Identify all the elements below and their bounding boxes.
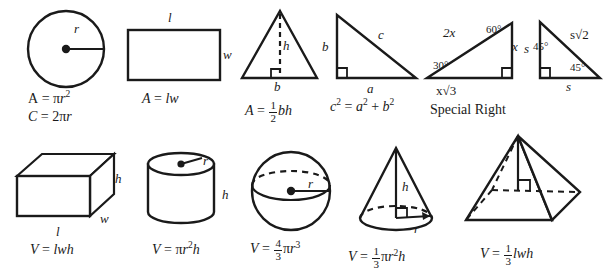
right-triangle-leg-b-label: b <box>322 40 329 53</box>
triangle-45-45-90-hypotenuse-label: s√2 <box>570 28 589 41</box>
triangle-30-60-90-angle-30-label: 30° <box>433 60 448 71</box>
triangle-45-45-90-angle-bottom-label: 45° <box>570 62 585 73</box>
pyramid-volume-formula: V = 13lwh <box>480 243 533 267</box>
rectangle-length-label: l <box>168 11 172 24</box>
circle-radius-label: r <box>74 22 79 35</box>
circle-area-lhs: A <box>28 91 38 106</box>
cylinder-volume-formula: V = πr2h <box>152 243 200 257</box>
sphere-frac-denominator: 3 <box>274 250 282 263</box>
triangle-frac-denominator: 2 <box>269 112 277 125</box>
pythagorean-formula: c2 = a2 + b2 <box>330 100 394 114</box>
cone-frac-numerator: 1 <box>372 246 380 258</box>
triangle-45-45-90-leg-left-label: s <box>524 42 529 55</box>
prism-height-label: h <box>115 172 122 185</box>
triangle-45-45-90-angle-top-label: 45° <box>533 41 548 52</box>
circle-area-formula: A = πr2 <box>28 92 70 106</box>
figure-circle <box>14 8 124 90</box>
prism-width-label: w <box>100 212 109 225</box>
right-triangle-leg-a-label: a <box>367 82 374 95</box>
figure-cone <box>348 144 448 236</box>
rectangle-area-formula: A = lw <box>142 92 179 106</box>
figure-triangle-30-60-90 <box>424 14 520 84</box>
geometry-formula-sheet: r A = πr2 C = 2πr l w A = lw h b A = 12b… <box>0 0 609 269</box>
pyramid-frac-denominator: 3 <box>504 255 512 268</box>
triangle-45-45-90-leg-bottom-label: s <box>566 80 571 93</box>
special-right-caption: Special Right <box>430 103 506 117</box>
triangle-30-60-90-short-leg-label: x <box>512 40 518 53</box>
sphere-radius-label: r <box>308 177 313 190</box>
cone-frac-denominator: 3 <box>372 258 380 269</box>
right-triangle-hypotenuse-label: c <box>378 28 384 41</box>
figure-cylinder <box>138 150 228 230</box>
cone-volume-fraction: 13 <box>372 246 380 269</box>
prism-length-label: l <box>56 225 60 238</box>
figure-sphere <box>243 148 339 234</box>
triangle-base-label: b <box>274 80 281 93</box>
cylinder-height-label: h <box>222 188 229 201</box>
circle-circumference-formula: C = 2πr <box>28 110 72 124</box>
prism-volume-formula: V = lwh <box>30 243 74 257</box>
pyramid-frac-numerator: 1 <box>504 243 512 255</box>
cylinder-radius-label: r <box>203 154 208 167</box>
triangle-30-60-90-long-leg-label: x√3 <box>436 84 456 97</box>
sphere-volume-formula: V = 43πr3 <box>250 238 300 262</box>
sphere-volume-fraction: 43 <box>274 238 282 262</box>
rectangle-width-label: w <box>223 48 232 61</box>
triangle-30-60-90-angle-60-label: 60° <box>486 24 501 35</box>
cone-height-label: h <box>402 180 409 193</box>
figure-right-triangle <box>332 12 422 84</box>
triangle-frac-numerator: 1 <box>269 100 277 112</box>
triangle-30-60-90-hypotenuse-label: 2x <box>443 26 455 39</box>
sphere-frac-numerator: 4 <box>274 238 282 250</box>
cone-radius-label: r <box>414 222 419 235</box>
circle-circ-r: r <box>66 109 71 124</box>
triangle-area-fraction: 12 <box>269 100 277 124</box>
figure-rectangle <box>126 28 228 84</box>
cone-volume-formula: V = 13πr2h <box>348 246 405 269</box>
figure-pyramid <box>452 132 592 238</box>
pyramid-volume-fraction: 13 <box>504 243 512 267</box>
triangle-height-label: h <box>283 39 290 52</box>
circle-circ-lhs: C <box>28 109 37 124</box>
triangle-area-formula: A = 12bh <box>245 100 292 124</box>
